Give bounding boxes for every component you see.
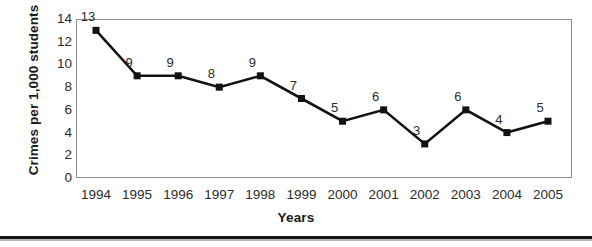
x-axis-tick-label: 1997 xyxy=(204,187,234,203)
x-axis-title: Years xyxy=(0,210,592,225)
x-axis-tick-label: 1996 xyxy=(163,187,193,203)
y-axis-tick-label: 10 xyxy=(50,57,72,71)
x-axis-tick-label: 1998 xyxy=(245,187,275,203)
data-point-label: 9 xyxy=(125,56,132,69)
y-axis-tick-label: 0 xyxy=(50,171,72,185)
x-axis-tick-label: 1994 xyxy=(81,187,111,203)
data-point-label: 13 xyxy=(81,10,95,23)
x-axis-tick-label: 2003 xyxy=(451,187,481,203)
chart-figure: Crimes per 1,000 students 02468101214 13… xyxy=(0,0,592,247)
x-axis-tick-label: 1995 xyxy=(122,187,152,203)
data-point-label: 9 xyxy=(249,56,256,69)
y-axis-title: Crimes per 1,000 students xyxy=(22,0,46,190)
y-axis-tick-label: 6 xyxy=(50,103,72,117)
x-axis-tick-label: 2001 xyxy=(369,187,399,203)
data-point-label: 3 xyxy=(413,124,420,137)
data-point-label: 4 xyxy=(495,113,502,126)
y-axis-tick-label: 8 xyxy=(50,80,72,94)
x-axis-tick-label: 2005 xyxy=(533,187,563,203)
data-point-label: 9 xyxy=(167,56,174,69)
x-axis-tick-label: 2000 xyxy=(328,187,358,203)
data-point-label: 6 xyxy=(372,90,379,103)
x-axis-tick-label: 2004 xyxy=(492,187,522,203)
x-axis-tick-label: 1999 xyxy=(286,187,316,203)
data-point-label: 6 xyxy=(454,90,461,103)
data-point-label: 8 xyxy=(208,67,215,80)
y-axis-tick-label: 2 xyxy=(50,148,72,162)
data-point-label: 7 xyxy=(290,79,297,92)
data-point-label: 5 xyxy=(331,101,338,114)
x-axis-tick-labels: 1994199519961997199819992000200120022003… xyxy=(0,187,592,205)
x-axis-tick-label: 2002 xyxy=(410,187,440,203)
bottom-divider-shadow xyxy=(0,239,592,241)
y-axis-tick-label: 14 xyxy=(50,12,72,26)
plot-area xyxy=(76,19,572,178)
y-axis-tick-label: 12 xyxy=(50,35,72,49)
data-point-label: 5 xyxy=(536,101,543,114)
y-axis-tick-label: 4 xyxy=(50,126,72,140)
